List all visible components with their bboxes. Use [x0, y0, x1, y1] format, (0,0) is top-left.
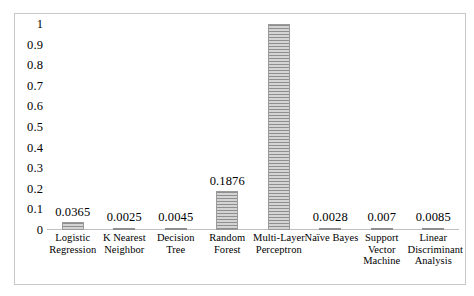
y-axis-tick-label: 0.4 [15, 141, 43, 154]
plot-area: 10.90.80.70.60.50.40.30.20.10 0.03650.00… [15, 14, 465, 284]
bar-value-label: 0.0365 [55, 206, 90, 219]
category-label-line: Vector [356, 244, 408, 256]
x-axis-category-labels: LogisticRegressionK NearestNeighborDecis… [47, 232, 459, 282]
bar-value-label: 0.0028 [313, 211, 348, 224]
bar-value-label: 0.007 [367, 211, 396, 224]
category-label-line: Multi-Layer [253, 232, 305, 244]
category-label-line: Regression [47, 244, 99, 256]
bar-value-label: 0.1876 [210, 175, 245, 188]
category-label-line: Machine [356, 255, 408, 267]
bar-column: 0.0365 [47, 24, 99, 230]
bar-slot: 0.0028 [305, 24, 357, 230]
category-label-line: Decision [150, 232, 202, 244]
category-label-line: Linear [408, 232, 460, 244]
category-label-line: Tree [150, 244, 202, 256]
bar-value-label: 0.0045 [158, 211, 193, 224]
y-axis-tick-label: 0 [15, 224, 43, 237]
bar-column: 0.0025 [99, 24, 151, 230]
category-label-line: Analysis [408, 255, 460, 267]
category-label-line: Discriminant [408, 244, 460, 256]
bar-slot: 0.1876 [202, 24, 254, 230]
category-label: DecisionTree [150, 232, 202, 255]
bar[interactable] [216, 191, 238, 230]
category-label-line: Naïve Bayes [305, 232, 357, 244]
bar-value-label: 0.0025 [107, 211, 142, 224]
bar[interactable] [165, 228, 187, 230]
category-label-line: Logistic [47, 232, 99, 244]
bar-column: 0.0045 [150, 24, 202, 230]
bar-slot: 0.007 [356, 24, 408, 230]
y-axis-tick-label: 0.1 [15, 203, 43, 216]
bar-slot: 0.0025 [99, 24, 151, 230]
bar[interactable] [319, 228, 341, 230]
chart-figure: 10.90.80.70.60.50.40.30.20.10 0.03650.00… [14, 13, 466, 285]
y-axis-tick-label: 0.2 [15, 183, 43, 196]
category-label: RandomForest [202, 232, 254, 255]
bar-column: 0.007 [356, 24, 408, 230]
y-axis-tick-label: 0.9 [15, 38, 43, 51]
bar-slot [253, 24, 305, 230]
bar[interactable] [422, 228, 444, 230]
category-label-line: Neighbor [99, 244, 151, 256]
category-label: K NearestNeighbor [99, 232, 151, 255]
bar[interactable] [371, 228, 393, 230]
bar[interactable] [268, 24, 290, 230]
category-label: Naïve Bayes [305, 232, 357, 244]
category-label-line: Perceptron [253, 244, 305, 256]
y-axis-tick-label: 0.7 [15, 80, 43, 93]
bar-value-label: 0.0085 [416, 211, 451, 224]
bars-region: 0.03650.00250.00450.18760.00280.0070.008… [47, 24, 459, 230]
category-label: LinearDiscriminantAnalysis [408, 232, 460, 267]
bar-slot: 0.0365 [47, 24, 99, 230]
category-label-line: Forest [202, 244, 254, 256]
bar-column: 0.0085 [408, 24, 460, 230]
category-label: Multi-LayerPerceptron [253, 232, 305, 255]
category-label-line: K Nearest [99, 232, 151, 244]
bar-slot: 0.0085 [408, 24, 460, 230]
category-label-line: Support [356, 232, 408, 244]
bar-slot: 0.0045 [150, 24, 202, 230]
bar[interactable] [113, 228, 135, 230]
y-axis-tick-label: 0.3 [15, 162, 43, 175]
y-axis-tick-label: 1 [15, 18, 43, 31]
bar-column: 0.0028 [305, 24, 357, 230]
y-axis-tick-label: 0.8 [15, 59, 43, 72]
category-label-line: Random [202, 232, 254, 244]
y-axis: 10.90.80.70.60.50.40.30.20.10 [15, 24, 43, 230]
bar-column: 0.1876 [202, 24, 254, 230]
y-axis-tick-label: 0.5 [15, 121, 43, 134]
category-label: LogisticRegression [47, 232, 99, 255]
category-label: SupportVectorMachine [356, 232, 408, 267]
bar-column [253, 24, 305, 230]
bar[interactable] [62, 222, 84, 230]
y-axis-tick-label: 0.6 [15, 100, 43, 113]
